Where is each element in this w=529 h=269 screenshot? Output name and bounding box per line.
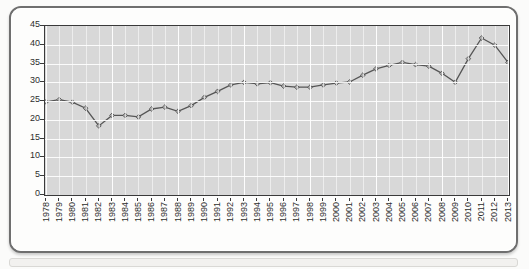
gridline-vertical bbox=[72, 26, 73, 195]
x-axis-tick bbox=[111, 198, 112, 201]
gridline-horizontal bbox=[45, 45, 509, 46]
gridline-vertical bbox=[416, 26, 417, 195]
x-axis-tick-label: 1984 bbox=[120, 202, 130, 222]
x-axis-tick-label: 1988 bbox=[173, 202, 183, 222]
x-axis-labels: 1978197919801981198219831984198519861987… bbox=[44, 198, 510, 260]
x-axis-tick-label: 1993 bbox=[239, 202, 249, 222]
x-axis-tick bbox=[454, 198, 455, 201]
x-axis-tick bbox=[322, 198, 323, 201]
line-chart: 051015202530354045 197819791980198119821… bbox=[0, 0, 529, 269]
x-axis-tick bbox=[256, 198, 257, 201]
x-axis-tick bbox=[349, 198, 350, 201]
gridline-horizontal bbox=[45, 157, 509, 158]
gridline-vertical bbox=[178, 26, 179, 195]
x-axis-tick bbox=[283, 198, 284, 201]
x-axis-tick-label: 2005 bbox=[397, 202, 407, 222]
x-axis-tick-label: 1995 bbox=[265, 202, 275, 222]
x-axis-tick bbox=[58, 198, 59, 201]
gridline-vertical bbox=[244, 26, 245, 195]
x-axis-tick bbox=[164, 198, 165, 201]
gridline-vertical bbox=[218, 26, 219, 195]
x-axis-tick-label: 1990 bbox=[199, 202, 209, 222]
y-axis-tick bbox=[40, 81, 44, 82]
gridline-vertical bbox=[389, 26, 390, 195]
y-axis-tick-label: 45 bbox=[6, 20, 40, 29]
gridline-vertical bbox=[363, 26, 364, 195]
y-axis-tick-label: 5 bbox=[6, 170, 40, 179]
gridline-vertical bbox=[429, 26, 430, 195]
x-axis-tick bbox=[137, 198, 138, 201]
x-axis-tick bbox=[441, 198, 442, 201]
y-axis-tick bbox=[40, 44, 44, 45]
x-axis-tick-label: 2003 bbox=[371, 202, 381, 222]
x-axis-tick bbox=[177, 198, 178, 201]
gridline-vertical bbox=[165, 26, 166, 195]
x-axis-tick bbox=[217, 198, 218, 201]
gridline-vertical bbox=[402, 26, 403, 195]
x-axis-tick bbox=[269, 198, 270, 201]
x-axis-tick-label: 1980 bbox=[67, 202, 77, 222]
gridline-vertical bbox=[152, 26, 153, 195]
gridline-horizontal bbox=[45, 64, 509, 65]
gridline-vertical bbox=[297, 26, 298, 195]
x-axis-tick bbox=[362, 198, 363, 201]
y-axis-tick bbox=[40, 119, 44, 120]
x-axis-tick bbox=[243, 198, 244, 201]
x-axis-tick-label: 1978 bbox=[41, 202, 51, 222]
gridline-vertical bbox=[455, 26, 456, 195]
plot-area bbox=[44, 25, 510, 196]
y-axis-tick-label: 25 bbox=[6, 95, 40, 104]
x-axis-tick bbox=[190, 198, 191, 201]
gridline-horizontal bbox=[45, 120, 509, 121]
x-axis-tick bbox=[467, 198, 468, 201]
gridline-vertical bbox=[310, 26, 311, 195]
x-axis-tick bbox=[71, 198, 72, 201]
x-axis-tick-label: 2010 bbox=[463, 202, 473, 222]
x-axis-tick-label: 2008 bbox=[437, 202, 447, 222]
gridline-vertical bbox=[112, 26, 113, 195]
x-axis-tick bbox=[507, 198, 508, 201]
y-axis-tick-label: 0 bbox=[6, 189, 40, 198]
x-axis-tick-label: 1991 bbox=[212, 202, 222, 222]
x-axis-tick bbox=[151, 198, 152, 201]
y-axis-tick-label: 20 bbox=[6, 114, 40, 123]
gridline-vertical bbox=[138, 26, 139, 195]
x-axis-tick bbox=[124, 198, 125, 201]
gridline-horizontal bbox=[45, 101, 509, 102]
gridline-horizontal bbox=[45, 176, 509, 177]
x-axis-tick-label: 2009 bbox=[450, 202, 460, 222]
gridline-vertical bbox=[46, 26, 47, 195]
x-axis-tick bbox=[335, 198, 336, 201]
gridline-vertical bbox=[336, 26, 337, 195]
x-axis-tick bbox=[98, 198, 99, 201]
gridline-vertical bbox=[231, 26, 232, 195]
gridline-vertical bbox=[284, 26, 285, 195]
data-series-line bbox=[45, 26, 509, 195]
x-axis-tick bbox=[375, 198, 376, 201]
y-axis-tick bbox=[40, 194, 44, 195]
gridline-vertical bbox=[495, 26, 496, 195]
y-axis-tick bbox=[40, 156, 44, 157]
x-axis-tick bbox=[296, 198, 297, 201]
x-axis-tick-label: 2001 bbox=[344, 202, 354, 222]
x-axis-tick bbox=[481, 198, 482, 201]
x-axis-tick-label: 1989 bbox=[186, 202, 196, 222]
y-axis-tick bbox=[40, 138, 44, 139]
y-axis-labels: 051015202530354045 bbox=[4, 0, 40, 269]
gridline-vertical bbox=[204, 26, 205, 195]
x-axis-tick-label: 1996 bbox=[278, 202, 288, 222]
y-axis-tick bbox=[40, 25, 44, 26]
y-axis-tick bbox=[40, 63, 44, 64]
gridline-vertical bbox=[257, 26, 258, 195]
x-axis-tick bbox=[415, 198, 416, 201]
x-axis-tick bbox=[494, 198, 495, 201]
x-axis-tick-label: 1998 bbox=[305, 202, 315, 222]
gridline-vertical bbox=[508, 26, 509, 195]
x-axis-tick-label: 2000 bbox=[331, 202, 341, 222]
y-axis-tick bbox=[40, 100, 44, 101]
x-axis-tick bbox=[428, 198, 429, 201]
y-axis-tick-label: 10 bbox=[6, 151, 40, 160]
x-axis-tick bbox=[388, 198, 389, 201]
x-axis-tick-label: 2002 bbox=[357, 202, 367, 222]
y-axis-tick-label: 15 bbox=[6, 133, 40, 142]
